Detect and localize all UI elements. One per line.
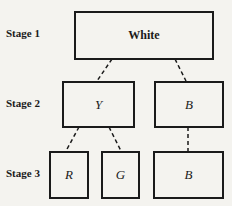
node-g: G [101,151,140,199]
edge-white-b [175,59,186,81]
node-white: White [74,11,214,60]
node-y: Y [62,81,135,128]
edge-white-y [97,59,112,81]
edge-y-r [66,127,79,151]
node-b-stage2: B [154,81,224,128]
node-b-stage3: B [153,151,224,199]
node-r: R [49,151,89,199]
edge-y-g [109,127,121,151]
